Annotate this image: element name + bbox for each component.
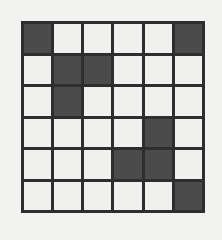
grid-cell-r4-c3[interactable] (84, 119, 111, 148)
grid-cell-r5-c2[interactable] (54, 150, 81, 179)
grid-cell-r2-c2[interactable] (54, 56, 81, 85)
grid-cell-r6-c4[interactable] (114, 182, 141, 211)
grid-cell-r5-c5[interactable] (145, 150, 172, 179)
grid-cell-r5-c3[interactable] (84, 150, 111, 179)
grid-cell-r6-c5[interactable] (145, 182, 172, 211)
grid-cell-r5-c1[interactable] (24, 150, 51, 179)
grid-cell-r4-c5[interactable] (145, 119, 172, 148)
grid-cell-r4-c1[interactable] (24, 119, 51, 148)
grid-cell-r5-c4[interactable] (114, 150, 141, 179)
grid-cell-r4-c6[interactable] (175, 119, 202, 148)
grid-cell-r3-c6[interactable] (175, 87, 202, 116)
grid-cell-r6-c1[interactable] (24, 182, 51, 211)
grid-cell-r3-c3[interactable] (84, 87, 111, 116)
grid-cell-r1-c5[interactable] (145, 24, 172, 53)
grid-cell-r1-c3[interactable] (84, 24, 111, 53)
grid-cell-r5-c6[interactable] (175, 150, 202, 179)
grid-cell-r3-c5[interactable] (145, 87, 172, 116)
pattern-grid[interactable] (21, 21, 205, 213)
grid-cell-r2-c1[interactable] (24, 56, 51, 85)
grid-cell-r4-c2[interactable] (54, 119, 81, 148)
grid-cell-r6-c3[interactable] (84, 182, 111, 211)
grid-cell-r6-c6[interactable] (175, 182, 202, 211)
grid-cell-r2-c6[interactable] (175, 56, 202, 85)
grid-cell-r1-c1[interactable] (24, 24, 51, 53)
grid-cell-r6-c2[interactable] (54, 182, 81, 211)
grid-cell-r1-c2[interactable] (54, 24, 81, 53)
grid-cell-r2-c3[interactable] (84, 56, 111, 85)
grid-cell-r2-c5[interactable] (145, 56, 172, 85)
grid-cell-r4-c4[interactable] (114, 119, 141, 148)
grid-cell-r1-c6[interactable] (175, 24, 202, 53)
grid-cell-r3-c1[interactable] (24, 87, 51, 116)
grid-cell-r3-c2[interactable] (54, 87, 81, 116)
grid-cell-r1-c4[interactable] (114, 24, 141, 53)
grid-cell-r2-c4[interactable] (114, 56, 141, 85)
grid-cell-r3-c4[interactable] (114, 87, 141, 116)
